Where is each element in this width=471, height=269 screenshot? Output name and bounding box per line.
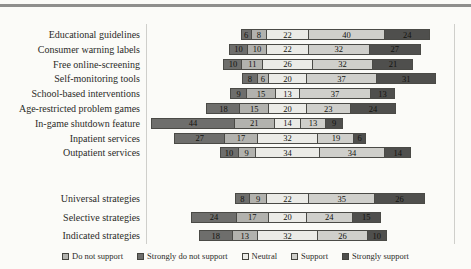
segment-value: 15: [250, 104, 259, 114]
bar-segment: 21: [373, 59, 413, 70]
bar-segment: 24: [307, 212, 353, 223]
legend-label: Support: [301, 251, 328, 261]
segment-value: 13: [309, 118, 318, 128]
segment-value: 8: [257, 30, 261, 40]
bar-segment: 31: [377, 73, 436, 84]
bar-segment: 6: [258, 73, 269, 84]
category-label: Self-monitoring tools: [0, 73, 140, 84]
segment-value: 21: [389, 59, 398, 69]
segment-value: 13: [378, 89, 387, 99]
bar-segment: 20: [269, 212, 307, 223]
segment-value: 44: [189, 118, 198, 128]
legend-label: Neutral: [252, 251, 278, 261]
segment-value: 6: [244, 30, 248, 40]
segment-value: 37: [337, 74, 346, 84]
segment-value: 9: [256, 194, 260, 204]
segment-value: 32: [338, 59, 347, 69]
legend-swatch-icon: [62, 253, 69, 260]
legend-item: Neutral: [242, 251, 278, 261]
segment-value: 24: [369, 104, 378, 114]
bar-segment: 9: [239, 147, 256, 158]
segment-value: 21: [250, 118, 259, 128]
top-rule: [0, 4, 471, 7]
segment-value: 34: [283, 148, 292, 158]
bar-segment: 27: [174, 133, 225, 144]
bar-segment: 24: [351, 103, 397, 114]
segment-value: 22: [283, 30, 292, 40]
bar-segment: 37: [300, 88, 370, 99]
segment-value: 9: [332, 118, 336, 128]
segment-value: 6: [358, 133, 362, 143]
category-label: Educational guidelines: [0, 29, 140, 40]
bar-segment: 8: [252, 29, 267, 40]
category-label: Inpatient services: [0, 133, 140, 144]
segment-value: 8: [248, 74, 252, 84]
segment-value: 32: [335, 44, 344, 54]
legend: Do not supportStrongly do not supportNeu…: [0, 248, 471, 264]
plot-area-right-border: [454, 24, 455, 244]
bar-segment: 32: [313, 59, 374, 70]
bar-segment: 18: [199, 230, 233, 241]
bar-segment: 13: [301, 118, 326, 129]
category-label: Outpatient services: [0, 147, 140, 158]
bar-segment: 23: [307, 103, 351, 114]
segment-value: 26: [395, 194, 404, 204]
segment-value: 15: [362, 212, 371, 222]
segment-value: 27: [195, 133, 204, 143]
segment-value: 26: [338, 231, 347, 241]
bar-segment: 20: [269, 103, 307, 114]
bar-segment: 20: [269, 73, 307, 84]
legend-swatch-icon: [137, 253, 144, 260]
category-label: In-game shutdown feature: [0, 118, 140, 129]
segment-value: 10: [229, 59, 238, 69]
category-label: Indicated strategies: [0, 230, 140, 241]
segment-value: 27: [391, 44, 400, 54]
bar-segment: 24: [191, 212, 237, 223]
bar-segment: 9: [326, 118, 343, 129]
segment-value: 18: [212, 231, 221, 241]
bar-segment: 8: [242, 73, 257, 84]
segment-value: 14: [393, 148, 402, 158]
segment-value: 10: [373, 231, 382, 241]
bar-segment: 35: [309, 193, 376, 204]
bar-segment: 44: [151, 118, 235, 129]
legend-label: Strongly support: [352, 251, 409, 261]
segment-value: 32: [283, 231, 292, 241]
bar-segment: 15: [247, 88, 276, 99]
category-label: School-based interventions: [0, 88, 140, 99]
bar-segment: 9: [250, 193, 267, 204]
segment-value: 19: [332, 133, 341, 143]
likert-diverging-bar-chart: Educational guidelines68224024Consumer w…: [0, 0, 471, 269]
bar-segment: 10: [220, 147, 239, 158]
segment-value: 17: [248, 212, 257, 222]
bar-row: 271732196: [174, 133, 366, 144]
segment-value: 26: [283, 59, 292, 69]
legend-label: Do not support: [72, 251, 123, 261]
bar-segment: 18: [206, 103, 240, 114]
bar-row: 1815202324: [206, 103, 396, 114]
bar-segment: 17: [237, 212, 269, 223]
segment-value: 11: [248, 59, 256, 69]
bar-row: 1813322610: [199, 230, 387, 241]
bar-segment: 6: [354, 133, 365, 144]
bar-segment: 10: [248, 44, 267, 55]
bar-segment: 21: [235, 118, 275, 129]
bar-segment: 32: [309, 44, 370, 55]
plot-area-left-border: [146, 24, 147, 244]
bar-segment: 37: [307, 73, 377, 84]
segment-value: 22: [283, 194, 292, 204]
segment-value: 20: [283, 212, 292, 222]
segment-value: 37: [331, 89, 340, 99]
bar-segment: 26: [263, 59, 312, 70]
bar-segment: 40: [309, 29, 385, 40]
segment-value: 10: [234, 44, 243, 54]
segment-value: 9: [236, 89, 240, 99]
segment-value: 24: [325, 212, 334, 222]
bar-segment: 26: [318, 230, 367, 241]
category-label: Consumer warning labels: [0, 44, 140, 55]
bar-segment: 26: [375, 193, 424, 204]
bar-segment: 13: [371, 88, 396, 99]
segment-value: 20: [283, 74, 292, 84]
legend-swatch-icon: [242, 253, 249, 260]
bar-segment: 22: [267, 193, 309, 204]
